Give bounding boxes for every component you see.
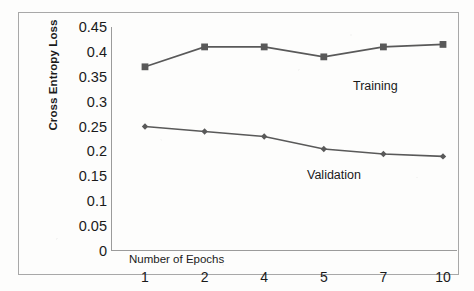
y-axis-tick-label: 0.1 [49, 194, 107, 209]
x-axis-tick-label: 4 [260, 269, 268, 285]
y-axis-tick-label: 0.05 [49, 219, 107, 234]
y-axis-tick-label: 0.2 [49, 144, 107, 159]
x-axis-tick-label: 5 [320, 269, 328, 285]
data-point-marker [321, 146, 327, 152]
plot-area: Training Validation [111, 27, 457, 251]
series-line [145, 127, 443, 157]
x-axis-tick-label-group: 1245710 [111, 269, 457, 289]
series-label-validation: Validation [307, 168, 361, 182]
chart-series-canvas [111, 27, 457, 251]
x-axis-tick-label: 2 [201, 269, 209, 285]
data-point-marker [380, 151, 386, 157]
data-point-marker [142, 63, 149, 70]
data-point-marker [320, 53, 327, 60]
series-line [145, 44, 443, 66]
data-point-marker [440, 41, 447, 48]
data-point-marker [201, 128, 207, 134]
data-point-marker [142, 123, 148, 129]
y-axis-tick-label-group: 0.450.40.350.30.250.20.150.10.050 [49, 27, 107, 251]
data-point-marker [261, 44, 268, 51]
data-point-marker [380, 44, 387, 51]
x-axis-tick-label: 1 [141, 269, 149, 285]
x-axis-tick-label: 10 [435, 269, 451, 285]
y-axis-tick-label: 0.45 [49, 20, 107, 35]
scanned-page-background: Cross Entropy Loss 0.450.40.350.30.250.2… [0, 0, 474, 291]
y-axis-tick-label: 0 [49, 244, 107, 259]
y-axis-tick-label: 0.25 [49, 119, 107, 134]
y-axis-tick-label: 0.35 [49, 70, 107, 85]
data-point-marker [440, 153, 446, 159]
x-axis-tick-label: 7 [379, 269, 387, 285]
y-axis-tick-label: 0.15 [49, 169, 107, 184]
x-axis-title: Number of Epochs [129, 253, 224, 265]
chart-figure-frame: Cross Entropy Loss 0.450.40.350.30.250.2… [18, 12, 459, 275]
series-label-training: Training [353, 79, 398, 93]
series-validation [142, 123, 446, 159]
data-point-marker [261, 133, 267, 139]
series-training [142, 41, 447, 70]
y-axis-tick-label: 0.3 [49, 94, 107, 109]
data-point-marker [201, 44, 208, 51]
y-axis-tick-label: 0.4 [49, 45, 107, 60]
